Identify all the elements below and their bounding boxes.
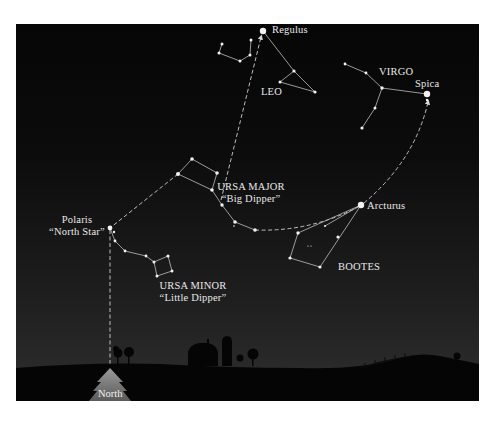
bootes-lines (290, 205, 361, 267)
ursa-major-name: URSA MAJOR (217, 181, 285, 192)
star-regulus (260, 28, 266, 34)
polaris-name: Polaris (62, 214, 93, 225)
star-arcturus (358, 202, 364, 208)
pointer-to-polaris (110, 174, 178, 228)
arc-to-arcturus (255, 207, 358, 230)
label-ursa-minor: URSA MINOR “Little Dipper” (152, 280, 234, 304)
label-ursa-major: URSA MAJOR “Big Dipper” (214, 181, 288, 205)
label-spica: Spica (415, 78, 439, 90)
label-north: North (98, 388, 123, 399)
leo-lines (219, 40, 251, 61)
big-dipper-lines (178, 159, 217, 190)
ursa-minor-name: URSA MINOR (159, 280, 226, 291)
trees-left (113, 346, 134, 366)
horizon-silhouette (16, 336, 479, 401)
ursa-minor-nickname: “Little Dipper” (160, 292, 227, 303)
little-dipper-lines (110, 228, 172, 276)
barn (188, 343, 218, 366)
label-leo: LEO (261, 86, 282, 98)
star-chart: Regulus LEO VIRGO Spica URSA MAJOR “Big … (16, 24, 479, 401)
star-spica (424, 91, 430, 97)
label-bootes: BOOTES (338, 261, 380, 273)
arc-to-spica (364, 102, 428, 203)
label-arcturus: Arcturus (367, 200, 405, 212)
label-regulus: Regulus (272, 24, 308, 36)
silo (222, 336, 232, 366)
ground (16, 354, 479, 401)
polaris-nickname: “North Star” (49, 226, 105, 237)
label-virgo: VIRGO (379, 66, 413, 78)
label-polaris: Polaris “North Star” (42, 214, 112, 238)
ursa-major-nickname: “Big Dipper” (222, 193, 281, 204)
sky-diagram (16, 24, 479, 401)
